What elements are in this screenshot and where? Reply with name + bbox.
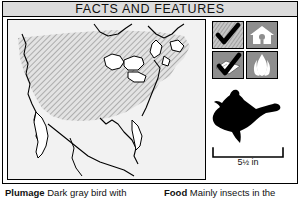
bird-silhouette [208,85,288,147]
page-title: FACTS AND FEATURES [75,3,224,16]
bird-size-block: 5½ in [208,85,288,177]
caption-plumage-label: Plumage [5,187,45,198]
caption-food-text: Mainly insects in the [187,187,275,198]
page-body: 5½ in [3,17,297,183]
caption-plumage-text: Dark gray bird with [45,187,127,198]
right-border-rule [297,1,298,184]
size-scale-label: 5½ in [208,158,288,167]
flower-icon[interactable] [246,51,278,79]
caption-food: Food Mainly insects in the [164,186,275,199]
checkmark-feeder-icon[interactable] [212,51,244,79]
caption-food-label: Food [164,187,187,198]
scale-unit: in [249,157,259,167]
caption-row: Plumage Dark gray bird with Food Mainly … [2,186,300,201]
feature-icon-grid [212,21,280,81]
checkmark-habitat-icon[interactable] [212,21,244,49]
facts-and-features-page: FACTS AND FEATURES [0,0,302,201]
birdhouse-icon[interactable] [246,21,278,49]
caption-plumage: Plumage Dark gray bird with [5,186,126,199]
page-title-bar: FACTS AND FEATURES [3,2,297,17]
range-map-panel [7,19,206,180]
north-america-range-map [8,20,205,179]
